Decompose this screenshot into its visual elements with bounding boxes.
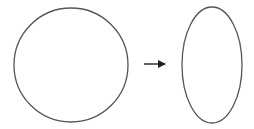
diagram-canvas	[0, 0, 254, 129]
target-ellipse	[182, 7, 242, 123]
source-circle	[14, 8, 128, 122]
